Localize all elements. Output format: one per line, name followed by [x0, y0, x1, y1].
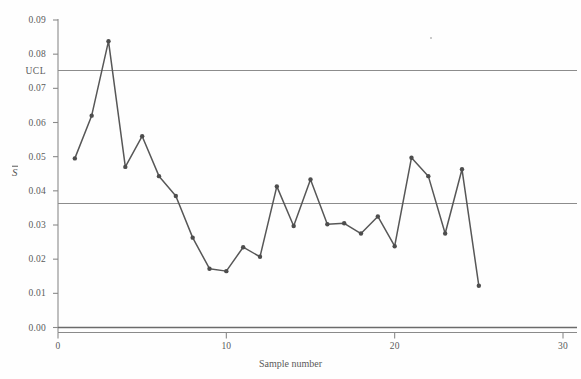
y-tick-label: 0.05: [8, 152, 46, 162]
image-artifact-speck: [430, 37, 432, 39]
y-tick-label: 0.08: [8, 49, 46, 59]
x-axis-title: Sample number: [0, 358, 581, 369]
y-tick-label: 0.07: [8, 83, 46, 93]
y-tick-label: 0.02: [8, 254, 46, 264]
y-axis-title: S: [12, 166, 18, 179]
y-tick-label: 0.09: [8, 15, 46, 25]
control-chart: 0.000.010.020.030.040.050.060.070.080.09…: [0, 0, 581, 379]
ucl-limit-label: UCL: [8, 66, 46, 76]
y-tick-label: 0.03: [8, 220, 46, 230]
x-tick-label: 20: [390, 341, 400, 351]
y-tick-label: 0.04: [8, 186, 46, 196]
chart-axes: [53, 19, 577, 339]
data-series-line: [75, 41, 479, 286]
y-tick-label: 0.06: [8, 118, 46, 128]
x-tick-label: 10: [221, 341, 231, 351]
chart-canvas: [0, 0, 581, 379]
y-tick-label: 0.01: [8, 288, 46, 298]
y-tick-label: 0.00: [8, 323, 46, 333]
data-point-markers: [73, 39, 481, 288]
x-tick-label: 30: [558, 341, 568, 351]
x-tick-label: 0: [56, 341, 61, 351]
y-axis-title-text: S: [12, 166, 18, 179]
